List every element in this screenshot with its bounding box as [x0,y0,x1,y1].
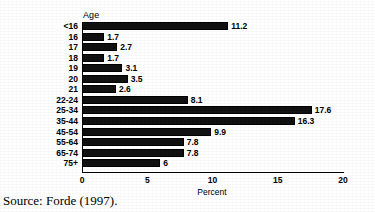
bar [82,106,312,114]
y-axis-line [82,22,83,173]
category-label: 65-74 [56,148,78,158]
category-label: 55-64 [56,137,78,147]
bar-row: 203.5 [82,75,343,83]
category-label: 25-34 [56,105,78,115]
bar-value-label: 9.9 [214,127,226,137]
bar-row: 193.1 [82,64,343,72]
x-tick-label: 10 [208,175,217,185]
bar-row: 212.6 [82,85,343,93]
bar-row: 22-248.1 [82,96,343,104]
category-label: 18 [69,53,78,63]
y-axis-title: Age [83,10,99,20]
bar-value-label: 7.8 [187,137,199,147]
bar [82,138,184,146]
bar-row: 55-647.8 [82,138,343,146]
bar [82,54,104,62]
bar-row: 172.7 [82,43,343,51]
bar [82,96,188,104]
bar-value-label: 16.3 [298,116,315,126]
bar [82,117,295,125]
bar-value-label: 6 [163,158,168,168]
category-label: 21 [69,84,78,94]
bar [82,43,117,51]
category-label: 35-44 [56,116,78,126]
bar-value-label: 2.6 [119,84,131,94]
category-label: 17 [69,42,78,52]
bar-value-label: 3.1 [125,63,137,73]
bar-row: 35-4416.3 [82,117,343,125]
bar [82,75,128,83]
bar-value-label: 3.5 [131,74,143,84]
bar-row: 45-549.9 [82,128,343,136]
figure: Age <1611.2161.7172.7181.7193.1203.5212.… [0,0,375,212]
bar [82,85,116,93]
category-label: <16 [64,21,78,31]
category-label: 22-24 [56,95,78,105]
x-tick-label: 20 [338,175,347,185]
bar-value-label: 2.7 [120,42,132,52]
bar-chart: Age <1611.2161.7172.7181.7193.1203.5212.… [0,0,375,182]
category-label: 16 [69,32,78,42]
x-axis-line [82,172,344,173]
bar-value-label: 7.8 [187,148,199,158]
bar-row: <1611.2 [82,22,343,30]
bar [82,33,104,41]
bar [82,64,122,72]
bar [82,159,160,167]
bar-value-label: 17.6 [315,105,332,115]
category-label: 75+ [64,158,78,168]
bar-value-label: 1.7 [107,32,119,42]
bar [82,22,228,30]
bar-row: 65-747.8 [82,149,343,157]
bar-value-label: 8.1 [191,95,203,105]
x-tick-label: 5 [145,175,150,185]
bar-value-label: 1.7 [107,53,119,63]
bar [82,149,184,157]
category-label: 19 [69,63,78,73]
category-label: 45-54 [56,127,78,137]
bar-value-label: 11.2 [231,21,247,31]
x-tick-label: 0 [80,175,85,185]
bar-row: 161.7 [82,33,343,41]
bar-row: 25-3417.6 [82,106,343,114]
source-note: Source: Forde (1997). [3,193,117,209]
bar [82,128,211,136]
category-label: 20 [69,74,78,84]
plot-area: <1611.2161.7172.7181.7193.1203.5212.622-… [82,22,343,172]
bar-row: 75+6 [82,159,343,167]
x-axis-title: Percent [197,187,226,197]
bar-row: 181.7 [82,54,343,62]
x-tick-label: 15 [273,175,282,185]
